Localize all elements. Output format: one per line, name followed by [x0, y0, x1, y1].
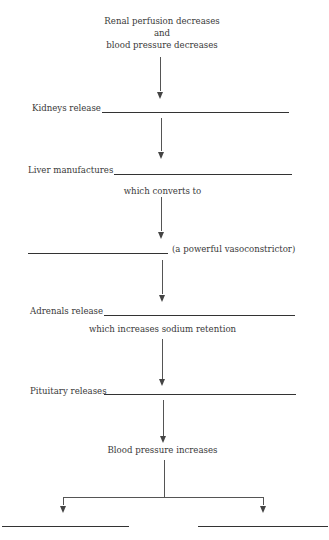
arrow-down-icon — [159, 295, 165, 302]
pituitary-answer-blank[interactable] — [104, 394, 296, 395]
branch-crossbar — [63, 497, 264, 498]
title-line-2: and — [100, 28, 224, 39]
arrow-down-icon — [158, 232, 164, 239]
kidneys-label: Kidneys release — [32, 103, 101, 114]
vasoconstrictor-answer-blank[interactable] — [28, 253, 168, 254]
title-line-1: Renal perfusion decreases — [100, 16, 224, 27]
arrow-down-icon — [158, 152, 164, 159]
arrow-line — [162, 339, 163, 379]
arrow-down-icon — [157, 92, 163, 99]
pituitary-label: Pituitary releases — [30, 386, 107, 397]
arrow-down-icon — [160, 436, 166, 443]
arrow-down-icon — [60, 506, 66, 513]
title-line-3: blood pressure decreases — [90, 40, 234, 51]
outcome-text: Blood pressure increases — [100, 445, 225, 456]
arrow-down-icon — [159, 379, 165, 386]
branch-right-answer-blank[interactable] — [198, 526, 328, 527]
vasoconstrictor-note: (a powerful vasoconstrictor) — [172, 244, 295, 255]
adrenals-label: Adrenals release — [30, 306, 103, 317]
adrenals-answer-blank[interactable] — [104, 315, 295, 316]
arrow-line — [160, 57, 161, 91]
arrow-down-icon — [260, 506, 266, 513]
liver-label: Liver manufactures — [28, 165, 113, 176]
adrenals-note: which increases sodium retention — [80, 324, 245, 335]
branch-stem — [164, 460, 165, 497]
kidneys-answer-blank[interactable] — [102, 112, 289, 113]
liver-answer-blank[interactable] — [114, 174, 292, 175]
arrow-line — [161, 197, 162, 231]
arrow-line — [163, 400, 164, 436]
arrow-line — [161, 118, 162, 151]
branch-left-line — [63, 497, 64, 505]
arrow-line — [162, 260, 163, 294]
liver-note: which converts to — [110, 186, 215, 197]
branch-left-answer-blank[interactable] — [2, 526, 129, 527]
branch-right-line — [263, 497, 264, 505]
